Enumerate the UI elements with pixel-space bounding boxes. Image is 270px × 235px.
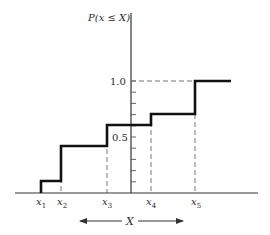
y-tick-label-1: 1.0 <box>110 76 126 87</box>
svg-text:x2: x2 <box>57 196 67 210</box>
y-axis-title: P(x ≤ X) <box>87 12 130 23</box>
svg-text:x3: x3 <box>102 196 112 210</box>
y-ticks <box>131 81 136 182</box>
svg-text:x5: x5 <box>191 196 201 210</box>
svg-text:x4: x4 <box>146 196 157 210</box>
cdf-step-chart: P(x ≤ X) 1.0 0.5 x1 x2 x3 x4 x5 X <box>0 0 270 235</box>
x-tick-labels: x1 x2 x3 x4 x5 <box>36 196 201 210</box>
y-tick-label-05: 0.5 <box>112 132 128 143</box>
guide-lines <box>61 81 195 193</box>
svg-text:x1: x1 <box>36 196 46 210</box>
range-arrow-label: X <box>125 215 135 228</box>
